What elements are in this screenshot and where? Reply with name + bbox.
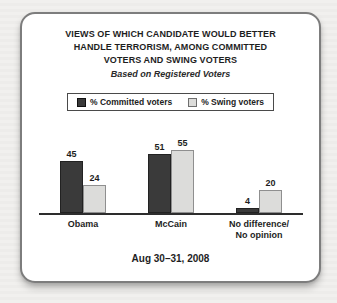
bar-mccain-swing: [171, 150, 194, 213]
value-label-nodifference-committed: 4: [245, 196, 250, 206]
barwrap-mccain-swing: 55: [171, 138, 194, 213]
chart-subtitle: Based on Registered Voters: [22, 68, 319, 81]
legend-label-committed: % Committed voters: [90, 97, 172, 107]
bar-obama-committed: [60, 161, 83, 213]
bar-nodifference-committed: [236, 208, 259, 213]
barwrap-obama-swing: 24: [83, 173, 106, 213]
category-label-nodifference-line1: No difference/: [224, 219, 294, 230]
category-label-nodifference-line2: No opinion: [224, 230, 294, 241]
value-label-obama-committed: 45: [66, 149, 76, 159]
chart-card: VIEWS OF WHICH CANDIDATE WOULD BETTER HA…: [20, 12, 321, 283]
committed-swatch-icon: [77, 98, 86, 107]
swing-swatch-icon: [188, 98, 197, 107]
legend-item-committed: % Committed voters: [77, 97, 172, 107]
chart-title-line2: HANDLE TERRORISM, AMONG COMMITTED: [22, 41, 319, 54]
category-labels: Obama McCain No difference/ No opinion: [39, 219, 303, 241]
category-label-obama: Obama: [48, 219, 118, 241]
barwrap-nodifference-committed: 4: [236, 196, 259, 213]
chart-title-line3: VOTERS AND SWING VOTERS: [22, 54, 319, 67]
chart-title: VIEWS OF WHICH CANDIDATE WOULD BETTER HA…: [22, 28, 319, 67]
legend-label-swing: % Swing voters: [201, 97, 264, 107]
bar-group-mccain: 51 55: [148, 138, 194, 213]
bar-mccain-committed: [148, 154, 171, 213]
barwrap-obama-committed: 45: [60, 149, 83, 213]
barwrap-mccain-committed: 51: [148, 142, 171, 213]
bar-group-nodifference: 4 20: [236, 178, 282, 213]
bar-obama-swing: [83, 185, 106, 213]
value-label-mccain-swing: 55: [177, 138, 187, 148]
value-label-mccain-committed: 51: [154, 142, 164, 152]
legend: % Committed voters % Swing voters: [22, 93, 319, 111]
value-label-obama-swing: 24: [89, 173, 99, 183]
legend-box: % Committed voters % Swing voters: [67, 93, 274, 111]
legend-item-swing: % Swing voters: [188, 97, 264, 107]
category-label-nodifference: No difference/ No opinion: [224, 219, 294, 241]
category-label-mccain: McCain: [136, 219, 206, 241]
barwrap-nodifference-swing: 20: [259, 178, 282, 213]
value-label-nodifference-swing: 20: [265, 178, 275, 188]
date-label: Aug 30–31, 2008: [22, 253, 319, 264]
chart-title-line1: VIEWS OF WHICH CANDIDATE WOULD BETTER: [22, 28, 319, 41]
bar-group-obama: 45 24: [60, 149, 106, 213]
bar-nodifference-swing: [259, 190, 282, 213]
bar-chart-plot-area: 45 24 51 55 4 20: [39, 135, 303, 215]
